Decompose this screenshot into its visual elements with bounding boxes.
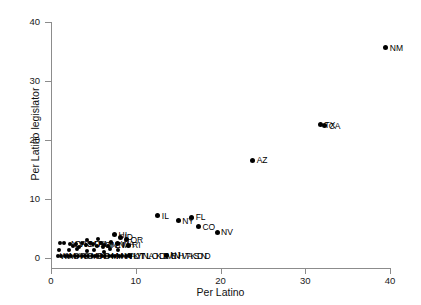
data-labels-layer: NMTXCAAZILFLNYCONVNJHIIDORWARIUTNCVAKSMD… (0, 0, 421, 305)
scatter-plot: 010203040 010203040 Per Latino legislato… (0, 0, 421, 305)
point-label-az: AZ (257, 156, 268, 165)
cluster-label: CTNENM (105, 241, 127, 250)
point-label-nm: NM (390, 44, 403, 53)
point-label-ri: RI (132, 241, 141, 250)
point-label-ca: CA (329, 122, 341, 131)
cluster-label: WVMSARSCMOINOHMIMNWIIAKYTNLAOKDEMENHVTAK… (60, 252, 208, 261)
point-label-fl: FL (196, 213, 206, 222)
point-label-nv: NV (221, 228, 233, 237)
point-label-il: IL (162, 212, 169, 221)
point-label-ny: NY (182, 217, 194, 226)
point-label-co: CO (202, 223, 215, 232)
cluster-label: NCVAKS (71, 240, 91, 249)
